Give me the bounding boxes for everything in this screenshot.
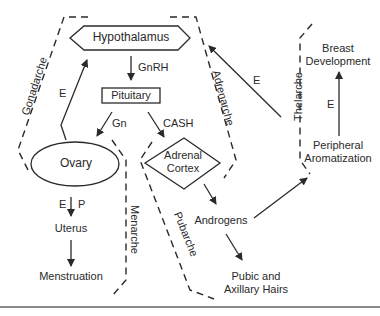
uterus-label: Uterus — [55, 222, 87, 235]
arrow-adrenal-to-androgens — [204, 184, 216, 204]
gnrh-label: GnRH — [138, 61, 169, 74]
pituitary-label: Pituitary — [111, 89, 151, 102]
arrow-gn — [97, 112, 112, 136]
hypothalamus-label: Hypothalamus — [93, 31, 170, 44]
adrenal-cortex-label-2: Cortex — [167, 162, 199, 175]
breast-label-2: Development — [306, 55, 371, 68]
pubic-hairs-label-2: Axillary Hairs — [224, 283, 288, 296]
breast-label-1: Breast — [322, 42, 354, 55]
puberty-hormone-diagram: Hypothalamus Pituitary Ovary Adrenal Cor… — [0, 0, 380, 316]
menarche-label: Menarche — [128, 205, 141, 254]
ovary-label: Ovary — [60, 157, 92, 170]
gn-label: Gn — [112, 117, 127, 130]
cash-label: CASH — [163, 117, 194, 130]
bottom-rule — [0, 306, 380, 308]
peripheral-label-2: Aromatization — [304, 152, 371, 165]
arrow-androgens-to-hairs — [226, 234, 242, 260]
arrow-ovary-to-hypothalamus — [61, 60, 87, 140]
e-ovary-uterus-label: E — [59, 198, 66, 211]
e-ovary-hypothalamus-label: E — [59, 87, 66, 100]
thelarche-label: Thelarche — [292, 72, 305, 121]
pubic-hairs-label-1: Pubic and — [232, 270, 281, 283]
arrow-cash — [148, 112, 164, 137]
adrenal-cortex-label-1: Adrenal — [164, 149, 202, 162]
peripheral-label-1: Peripheral — [313, 139, 363, 152]
arrow-androgens-to-peripheral — [254, 178, 307, 218]
e-peripheral-hypothalamus-label: E — [253, 74, 260, 87]
e-peripheral-breast-label: E — [327, 98, 334, 111]
menstruation-label: Menstruation — [39, 270, 103, 283]
p-ovary-uterus-label: P — [78, 198, 85, 211]
androgens-label: Androgens — [194, 214, 247, 227]
